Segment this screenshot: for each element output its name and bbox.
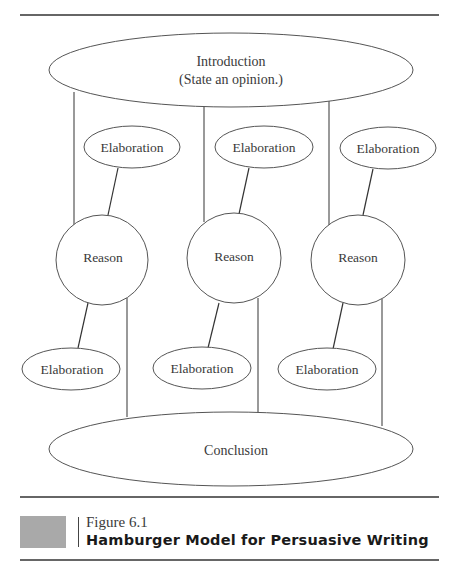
bottom-elaboration-3: Elaboration (278, 348, 376, 390)
reason-label: Reason (338, 250, 378, 265)
introduction-node: Introduction (State an opinion.) (49, 33, 413, 107)
elaboration-label: Elaboration (296, 362, 359, 377)
figure-number: Figure 6.1 (86, 514, 429, 531)
reason-node-1: Reason (56, 215, 148, 305)
introduction-sublabel: (State an opinion.) (179, 72, 283, 88)
bottom-elaboration-connectors (78, 303, 343, 349)
reason-node-3: Reason (311, 215, 405, 305)
elaboration-label: Elaboration (357, 141, 420, 156)
reason-node-2: Reason (187, 213, 281, 303)
reason-label: Reason (214, 249, 254, 264)
top-elaboration-2: Elaboration (215, 126, 313, 168)
elaboration-label: Elaboration (101, 140, 164, 155)
caption-gray-box (20, 516, 66, 548)
top-elaboration-3: Elaboration (340, 127, 436, 169)
bottom-elaboration-2: Elaboration (153, 347, 251, 389)
figure-caption: Figure 6.1 Hamburger Model for Persuasiv… (86, 514, 429, 549)
reason-label: Reason (83, 250, 123, 265)
hamburger-diagram: Introduction (State an opinion.) Elabora… (0, 0, 461, 567)
caption-divider (78, 517, 79, 547)
conclusion-node: Conclusion (49, 412, 413, 486)
figure-title: Hamburger Model for Persuasive Writing (86, 531, 429, 549)
introduction-label: Introduction (196, 54, 265, 69)
top-elaboration-connectors (108, 168, 373, 215)
elaboration-label: Elaboration (233, 140, 296, 155)
elaboration-label: Elaboration (41, 362, 104, 377)
elaboration-label: Elaboration (171, 361, 234, 376)
bottom-elaboration-1: Elaboration (22, 348, 120, 390)
conclusion-label: Conclusion (204, 443, 268, 458)
top-elaboration-1: Elaboration (84, 126, 180, 168)
